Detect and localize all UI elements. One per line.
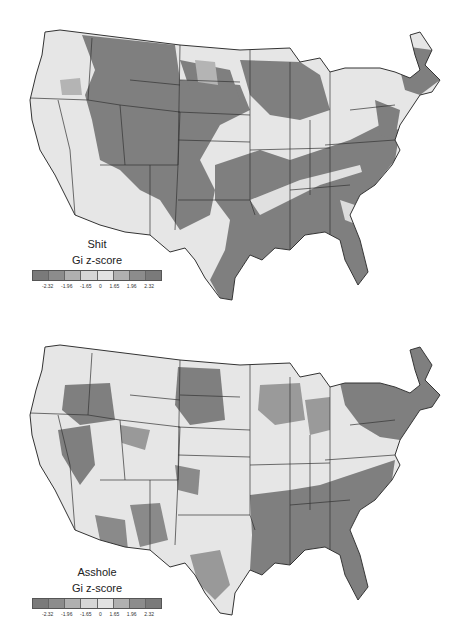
tick: -1.96 (61, 283, 72, 289)
legend-label: Gi z-score (32, 253, 162, 267)
legend-swatch (114, 271, 130, 280)
legend-swatch (98, 599, 114, 608)
map-term-label: Asshole (32, 565, 162, 579)
legend-swatch (130, 271, 146, 280)
legend-swatch (49, 271, 65, 280)
legend-swatch (49, 599, 65, 608)
legend-shit: Shit Gi z-score -2.32 -1.96 -1.65 0 1.65… (32, 237, 162, 289)
legend-asshole: Asshole Gi z-score -2.32 -1.96 -1.65 0 1… (32, 565, 162, 617)
tick: 1.65 (110, 611, 120, 617)
map-term-label: Shit (32, 237, 162, 251)
legend-swatch (33, 599, 49, 608)
tick: 1.65 (110, 283, 120, 289)
tick: 0 (99, 611, 102, 617)
legend-swatch (81, 599, 97, 608)
legend-swatches (32, 598, 162, 609)
tick: -1.65 (80, 283, 91, 289)
legend-ticks: -2.32 -1.96 -1.65 0 1.65 1.96 2.32 (32, 283, 162, 289)
legend-swatches (32, 270, 162, 281)
legend-label: Gi z-score (32, 581, 162, 595)
legend-swatch (130, 599, 146, 608)
tick: -1.65 (80, 611, 91, 617)
tick: 1.96 (127, 283, 137, 289)
legend-swatch (146, 599, 161, 608)
legend-swatch (146, 271, 161, 280)
tick: 0 (99, 283, 102, 289)
legend-swatch (65, 599, 81, 608)
tick: 2.32 (144, 611, 154, 617)
legend-ticks: -2.32 -1.96 -1.65 0 1.65 1.96 2.32 (32, 611, 162, 617)
tick: -2.32 (42, 611, 53, 617)
tick: -2.32 (42, 283, 53, 289)
legend-swatch (114, 599, 130, 608)
legend-swatch (33, 271, 49, 280)
legend-swatch (81, 271, 97, 280)
tick: -1.96 (61, 611, 72, 617)
tick: 1.96 (127, 611, 137, 617)
legend-swatch (65, 271, 81, 280)
tick: 2.32 (144, 283, 154, 289)
legend-swatch (98, 271, 114, 280)
